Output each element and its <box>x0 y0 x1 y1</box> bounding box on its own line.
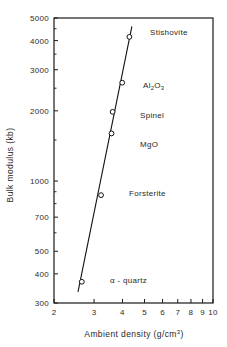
data-point-marker <box>79 279 84 284</box>
x-tick-label: 10 <box>208 308 218 317</box>
chart-background <box>0 0 227 347</box>
x-tick-label: 6 <box>160 308 165 317</box>
data-point-marker <box>120 80 125 85</box>
point-label-stishovite: Stishovite <box>150 28 188 37</box>
y-tick-label: 4000 <box>30 37 49 46</box>
point-label-forsterite: Forsterite <box>129 189 166 198</box>
bulk-modulus-density-plot: 2345678910 30040050070010002000300040005… <box>0 0 227 347</box>
data-point-marker <box>127 34 132 39</box>
y-axis-title: Bulk modulus (kb) <box>5 128 15 203</box>
data-point-marker <box>99 193 104 198</box>
x-tick-label: 2 <box>52 308 57 317</box>
data-point-marker <box>109 131 114 136</box>
y-tick-label: 300 <box>35 299 49 308</box>
y-tick-label: 3000 <box>30 66 49 75</box>
y-tick-label: 1000 <box>30 177 49 186</box>
chart-figure: 2345678910 30040050070010002000300040005… <box>0 0 227 347</box>
x-tick-label: 3 <box>92 308 97 317</box>
x-tick-label: 5 <box>142 308 147 317</box>
x-tick-label: 9 <box>200 308 205 317</box>
y-tick-label: 400 <box>35 270 49 279</box>
y-tick-label: 700 <box>35 213 49 222</box>
y-tick-label: 2000 <box>30 107 49 116</box>
y-tick-label: 500 <box>35 247 49 256</box>
x-tick-label: 8 <box>189 308 194 317</box>
x-tick-label: 7 <box>175 308 180 317</box>
x-axis-title: Ambient density (g/cm3) <box>84 329 183 339</box>
x-tick-label: 4 <box>120 308 125 317</box>
point-label-alpha-quartz: α - quartz <box>110 276 147 285</box>
y-tick-label: 5000 <box>30 14 49 23</box>
point-label-spinel: Spinel <box>140 111 164 120</box>
data-point-marker <box>110 109 115 114</box>
point-label-mgo: MgO <box>140 140 158 149</box>
